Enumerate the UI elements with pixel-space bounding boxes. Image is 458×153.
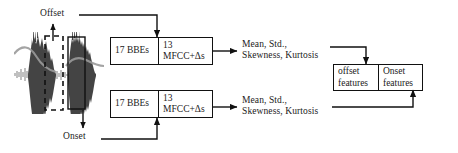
onset-statistics-line1: Mean, Std., xyxy=(242,95,287,105)
offset-features-line2: features xyxy=(338,78,378,89)
onset-feature-block[interactable]: 17 BBEs 13 MFCC+Δs xyxy=(110,90,213,118)
onset-to-block-connector xyxy=(101,118,157,139)
onset-statistics-line2: Skewness, Kurtosis xyxy=(242,106,318,117)
offset-features-line1: offset xyxy=(338,66,378,77)
onset-bbe-cell: 17 BBEs xyxy=(111,91,158,117)
offset-bbe-label: 17 BBEs xyxy=(115,45,158,56)
onset-stats-to-output-connector xyxy=(332,90,413,107)
onset-mfcc-count: 13 xyxy=(163,93,212,104)
onset-label: Onset xyxy=(63,131,86,142)
combined-features-box[interactable]: offset features Onset features xyxy=(333,64,423,91)
offset-features-cell: offset features xyxy=(334,65,378,90)
offset-label: Offset xyxy=(40,8,64,19)
pipeline-diagram: Offset Onset 17 BBEs 13 MFCC+Δs 17 BBEs … xyxy=(0,0,458,153)
onset-bbe-label: 17 BBEs xyxy=(115,98,158,109)
offset-feature-block[interactable]: 17 BBEs 13 MFCC+Δs xyxy=(110,37,213,65)
offset-statistics-label: Mean, Std., Skewness, Kurtosis xyxy=(242,39,318,60)
offset-mfcc-count: 13 xyxy=(163,40,212,51)
onset-features-line2: features xyxy=(383,78,422,89)
offset-statistics-line2: Skewness, Kurtosis xyxy=(242,50,318,61)
onset-statistics-label: Mean, Std., Skewness, Kurtosis xyxy=(242,95,318,116)
offset-stats-to-output-connector xyxy=(330,47,366,64)
audio-waveform xyxy=(14,22,104,130)
offset-mfcc-cell: 13 MFCC+Δs xyxy=(158,38,212,64)
offset-statistics-line1: Mean, Std., xyxy=(242,39,287,49)
onset-features-cell: Onset features xyxy=(378,65,422,90)
onset-features-line1: Onset xyxy=(383,66,422,77)
onset-mfcc-label: MFCC+Δs xyxy=(163,104,212,115)
offset-to-block-connector xyxy=(79,15,157,37)
offset-mfcc-label: MFCC+Δs xyxy=(163,51,212,62)
offset-bbe-cell: 17 BBEs xyxy=(111,38,158,64)
onset-mfcc-cell: 13 MFCC+Δs xyxy=(158,91,212,117)
